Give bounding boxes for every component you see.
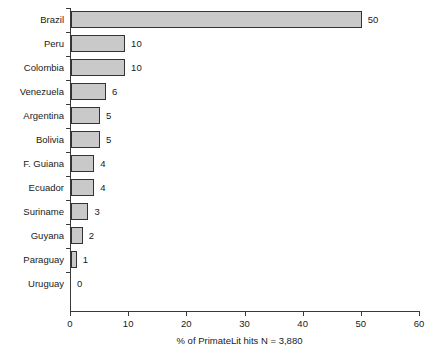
bar-row: Colombia10 <box>70 56 419 80</box>
category-label: Peru <box>44 32 64 56</box>
bar <box>71 227 83 244</box>
bar-row: Argentina5 <box>70 104 419 128</box>
x-axis-tick <box>70 311 71 316</box>
y-axis-tick <box>66 128 70 129</box>
bar-row: Ecuador4 <box>70 176 419 200</box>
bar-row: Bolivia5 <box>70 128 419 152</box>
bar-value-label: 4 <box>100 176 105 200</box>
x-axis-tick-label: 20 <box>181 318 192 329</box>
bar <box>71 107 100 124</box>
bar <box>71 203 88 220</box>
bar <box>71 251 77 268</box>
category-label: Venezuela <box>20 80 64 104</box>
bar-row: Guyana2 <box>70 224 419 248</box>
category-label: Argentina <box>23 104 64 128</box>
x-axis-title: % of PrimateLit hits N = 3,880 <box>0 335 435 346</box>
bar-value-label: 6 <box>112 80 117 104</box>
bar-row: Uruguay0 <box>70 272 419 296</box>
x-axis-tick <box>303 311 304 316</box>
y-axis-tick <box>66 152 70 153</box>
bar-value-label: 5 <box>106 128 111 152</box>
category-label: Guyana <box>31 224 64 248</box>
category-label: Uruguay <box>28 272 64 296</box>
bar-value-label: 0 <box>77 272 82 296</box>
bar-value-label: 10 <box>131 56 142 80</box>
bar-row: Venezuela6 <box>70 80 419 104</box>
bar <box>71 179 94 196</box>
bar-value-label: 5 <box>106 104 111 128</box>
category-label: Bolivia <box>36 128 64 152</box>
bar-value-label: 2 <box>89 224 94 248</box>
bar <box>71 59 125 76</box>
bar-value-label: 4 <box>100 152 105 176</box>
x-axis-tick <box>128 311 129 316</box>
x-axis-tick <box>361 311 362 316</box>
y-axis-tick <box>66 32 70 33</box>
bar-value-label: 50 <box>368 8 379 32</box>
y-axis-tick <box>66 272 70 273</box>
y-axis-tick <box>66 176 70 177</box>
bar-row: F. Guiana4 <box>70 152 419 176</box>
category-label: Paraguay <box>23 248 64 272</box>
x-axis-title-text: % of PrimateLit hits N = 3,880 <box>177 335 303 346</box>
bar-chart: Brazil50Peru10Colombia10Venezuela6Argent… <box>0 0 435 361</box>
y-axis-tick <box>66 8 70 9</box>
category-label: Suriname <box>23 200 64 224</box>
x-axis-tick-label: 40 <box>297 318 308 329</box>
bar-row: Peru10 <box>70 32 419 56</box>
category-label: Brazil <box>40 8 64 32</box>
bar-row: Paraguay1 <box>70 248 419 272</box>
x-axis-tick <box>419 311 420 316</box>
bar <box>71 11 362 28</box>
bar <box>71 131 100 148</box>
bar-value-label: 1 <box>83 248 88 272</box>
category-label: Colombia <box>24 56 64 80</box>
x-axis-tick-label: 30 <box>239 318 250 329</box>
x-axis-tick-label: 10 <box>123 318 134 329</box>
bar <box>71 83 106 100</box>
x-axis-tick <box>186 311 187 316</box>
bar <box>71 35 125 52</box>
bar <box>71 155 94 172</box>
x-axis-tick <box>245 311 246 316</box>
y-axis-tick <box>66 56 70 57</box>
x-axis-tick-label: 50 <box>356 318 367 329</box>
y-axis-tick <box>66 224 70 225</box>
bar-value-label: 3 <box>94 200 99 224</box>
bar-row: Suriname3 <box>70 200 419 224</box>
y-axis-tick <box>66 200 70 201</box>
plot-area: Brazil50Peru10Colombia10Venezuela6Argent… <box>70 8 419 310</box>
y-axis-tick <box>66 80 70 81</box>
category-label: F. Guiana <box>23 152 64 176</box>
x-axis-tick-label: 60 <box>414 318 425 329</box>
bar-row: Brazil50 <box>70 8 419 32</box>
category-label: Ecuador <box>29 176 64 200</box>
y-axis-tick <box>66 104 70 105</box>
y-axis-tick <box>66 248 70 249</box>
bar-value-label: 10 <box>131 32 142 56</box>
x-axis-tick-label: 0 <box>67 318 72 329</box>
